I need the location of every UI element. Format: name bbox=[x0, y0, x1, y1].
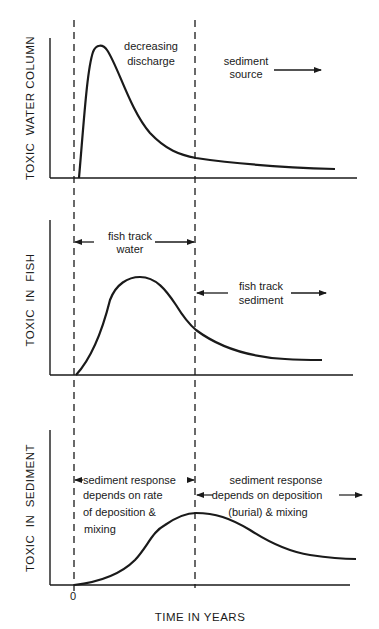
x-axis-label: TIME IN YEARS bbox=[155, 611, 246, 623]
annotation-left-2: depends on rate bbox=[83, 489, 163, 501]
annotation-fish-track-sediment-1: fish track bbox=[239, 280, 284, 292]
x-origin-label: 0 bbox=[70, 590, 76, 602]
annotation-right-3: (burial) & mixing bbox=[228, 506, 307, 518]
annotation-fish-track-water-1: fish track bbox=[108, 230, 153, 242]
annotation-left-3: of deposition & bbox=[83, 506, 156, 518]
fish-curve bbox=[76, 277, 322, 375]
annotation-sediment: sediment bbox=[224, 55, 269, 67]
annotation-left-1: sediment response bbox=[83, 474, 176, 486]
sediment-curve bbox=[74, 513, 356, 585]
toxic-dynamics-diagram: TOXIC WATER COLUMN decreasing discharge … bbox=[0, 0, 379, 629]
y-label-water-column: TOXIC WATER COLUMN bbox=[24, 36, 36, 180]
y-label-sediment: TOXIC IN SEDIMENT bbox=[24, 444, 36, 572]
annotation-right-1: sediment response bbox=[230, 474, 323, 486]
annotation-source: source bbox=[229, 68, 262, 80]
annotation-left-4: mixing bbox=[84, 523, 116, 535]
annotation-fish-track-water-2: water bbox=[116, 243, 144, 255]
panel-sediment: TOXIC IN SEDIMENT sediment response depe… bbox=[24, 430, 362, 585]
annotation-fish-track-sediment-2: sediment bbox=[239, 294, 284, 306]
water-column-curve bbox=[79, 46, 335, 178]
annotation-decreasing: decreasing bbox=[124, 40, 178, 52]
annotation-discharge: discharge bbox=[127, 55, 175, 67]
y-label-fish: TOXIC IN FISH bbox=[24, 254, 36, 347]
annotation-right-2: depends on deposition bbox=[212, 489, 323, 501]
